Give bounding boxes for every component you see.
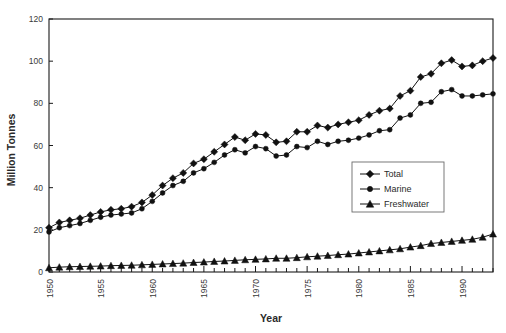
data-point [366,111,373,118]
chart-canvas: 020406080100120 195019551960196519701975… [0,0,506,333]
data-point [459,63,466,70]
data-point [294,144,299,149]
data-point [242,137,249,144]
plot-frame [49,19,493,272]
data-point [129,210,134,215]
data-point [346,138,351,143]
x-tick-label: 1990 [458,279,468,298]
data-point [479,58,486,65]
data-point [252,130,259,137]
data-point [139,206,144,211]
data-point [108,213,113,218]
data-point [169,175,176,182]
data-point [469,62,476,69]
data-point [200,156,207,163]
data-point [418,101,423,106]
data-point [88,218,93,223]
fisheries-production-line-chart: 020406080100120 195019551960196519701975… [0,0,506,333]
data-point [376,107,383,114]
y-tick-label: 100 [29,56,43,66]
series-line-freshwater [49,234,493,268]
data-point [221,141,228,148]
x-tick-label: 1965 [199,279,209,298]
data-point [480,92,485,97]
x-tick-label: 1970 [251,279,261,298]
data-point [47,229,52,234]
data-point [284,153,289,158]
y-tick-label: 80 [34,98,44,108]
data-point [356,136,361,141]
x-tick-label: 1955 [96,279,106,298]
data-point [335,121,342,128]
data-point [118,205,125,212]
x-tick-label: 1985 [406,279,416,298]
data-point [57,225,62,230]
data-point [408,112,413,117]
data-point [231,134,238,141]
data-point [87,212,94,219]
legend-marker-circle-icon [367,186,372,191]
x-tick-label: 1980 [354,279,364,298]
x-axis-ticks: 195019551960196519701975198019851990 [45,266,494,298]
data-point [160,190,165,195]
data-point [119,212,124,217]
series-freshwater [45,231,496,271]
y-tick-label: 40 [34,183,44,193]
data-point [387,127,392,132]
data-point [263,146,268,151]
y-tick-label: 120 [29,14,43,24]
data-point [315,139,320,144]
data-point [222,153,227,158]
data-point [489,231,496,237]
data-point [429,100,434,105]
data-point [273,139,280,146]
data-point [448,57,455,64]
data-point [211,148,218,155]
data-point [324,124,331,131]
data-point [491,91,496,96]
y-tick-label: 0 [38,267,43,277]
y-tick-label: 20 [34,225,44,235]
data-point [107,206,114,213]
data-point [56,219,63,226]
data-point [398,116,403,121]
data-point [76,215,83,222]
data-point [325,142,330,147]
data-point [212,160,217,165]
data-point [191,170,196,175]
data-point [201,166,206,171]
data-point [181,179,186,184]
data-point [489,54,496,61]
y-tick-label: 60 [34,141,44,151]
data-point [150,199,155,204]
data-point [138,199,145,206]
data-point [304,128,311,135]
data-point [243,150,248,155]
data-point [274,154,279,159]
data-point [314,122,321,129]
data-point [98,215,103,220]
legend-label-marine: Marine [384,184,412,194]
data-point [355,117,362,124]
data-point [377,128,382,133]
x-tick-label: 1975 [303,279,313,298]
y-axis-title: Million Tonnes [5,113,17,186]
legend-label-freshwater: Freshwater [384,199,429,209]
chart-legend: TotalMarineFreshwater [352,162,444,212]
data-point [128,203,135,210]
data-point [345,119,352,126]
data-point [97,208,104,215]
data-point [460,93,465,98]
data-point [232,147,237,152]
x-tick-label: 1960 [148,279,158,298]
data-point [470,93,475,98]
data-point [449,87,454,92]
data-point [439,89,444,94]
data-point [367,132,372,137]
data-point [67,223,72,228]
data-point [170,183,175,188]
data-point [336,139,341,144]
data-point [78,221,83,226]
data-point [262,131,269,138]
x-tick-label: 1950 [45,279,55,298]
